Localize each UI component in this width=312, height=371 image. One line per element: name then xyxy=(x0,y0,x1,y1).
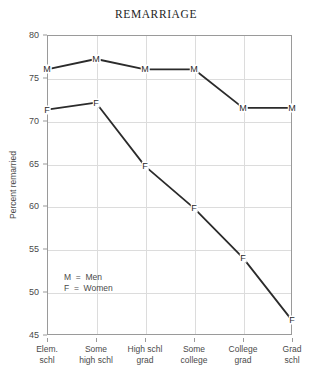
x-tick-label: Collegegrad xyxy=(229,344,258,366)
x-tick-mark xyxy=(47,338,48,342)
data-point-men-1: M xyxy=(92,55,101,64)
chart-title: REMARRIAGE xyxy=(0,8,312,20)
x-tick-label-line: schl xyxy=(283,355,302,366)
x-tick-label-line: Grad xyxy=(283,344,302,355)
data-point-women-1: F xyxy=(93,98,100,107)
x-tick-mark xyxy=(96,338,97,342)
legend-item-men: M = Men xyxy=(64,272,113,283)
chart-legend: M = MenF = Women xyxy=(64,272,113,294)
x-tick-mark xyxy=(145,338,146,342)
y-tick-label: 70 xyxy=(29,116,39,126)
y-axis: 4550556065707580 xyxy=(0,35,47,335)
data-point-women-5: F xyxy=(289,316,296,325)
remarriage-line-chart: REMARRIAGE Percent remarried 45505560657… xyxy=(0,0,312,371)
y-tick-label: 75 xyxy=(29,73,39,83)
x-tick-mark xyxy=(292,338,293,342)
legend-item-women: F = Women xyxy=(64,283,113,294)
y-tick-label: 80 xyxy=(29,30,39,40)
data-point-men-2: M xyxy=(141,65,150,74)
x-tick-label-line: Some xyxy=(181,344,208,355)
x-tick-label-line: Elem. xyxy=(36,344,58,355)
x-tick-label-line: college xyxy=(181,355,208,366)
x-tick-label-line: high schl xyxy=(79,355,113,366)
y-tick-label: 60 xyxy=(29,201,39,211)
x-tick-label: Somecollege xyxy=(181,344,208,366)
data-point-men-3: M xyxy=(190,65,199,74)
x-tick-label-line: grad xyxy=(229,355,258,366)
x-tick-label-line: High schl xyxy=(128,344,163,355)
data-point-men-4: M xyxy=(239,103,248,112)
x-tick-label-line: schl xyxy=(36,355,58,366)
data-point-men-0: M xyxy=(43,65,52,74)
y-tick-label: 65 xyxy=(29,159,39,169)
y-tick-label: 50 xyxy=(29,287,39,297)
data-point-women-4: F xyxy=(240,253,247,262)
series-line-men xyxy=(47,59,292,108)
x-tick-label-line: grad xyxy=(128,355,163,366)
x-tick-label: Gradschl xyxy=(283,344,302,366)
y-tick-label: 45 xyxy=(29,330,39,340)
y-tick-label: 55 xyxy=(29,244,39,254)
x-tick-label-line: College xyxy=(229,344,258,355)
x-axis: Elem.schlSomehigh schlHigh schlgradSomec… xyxy=(47,338,292,368)
x-tick-mark xyxy=(243,338,244,342)
x-tick-label: High schlgrad xyxy=(128,344,163,366)
x-tick-mark xyxy=(194,338,195,342)
data-point-women-3: F xyxy=(191,204,198,213)
x-tick-label: Somehigh schl xyxy=(79,344,113,366)
x-tick-label: Elem.schl xyxy=(36,344,58,366)
data-point-women-2: F xyxy=(142,162,149,171)
data-point-men-5: M xyxy=(288,103,297,112)
x-tick-label-line: Some xyxy=(79,344,113,355)
data-point-women-0: F xyxy=(44,105,51,114)
